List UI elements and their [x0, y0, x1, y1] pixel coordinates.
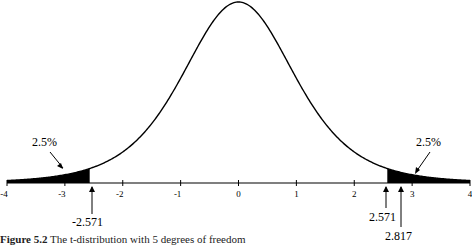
- left-tail-percent-label: 2.5%: [32, 135, 57, 149]
- x-tick-label: 3: [410, 189, 415, 199]
- crit-left-label: -2.571: [72, 215, 103, 229]
- crit-right-arrow: [383, 186, 389, 208]
- x-tick-label: -4: [0, 189, 8, 199]
- crit-right-label: 2.571: [369, 210, 396, 224]
- x-tick-label: 2: [352, 189, 357, 199]
- x-tick-label: -2: [116, 189, 124, 199]
- x-tick-label: 4: [468, 189, 472, 199]
- density-curve: [7, 2, 470, 181]
- figure-caption: Figure 5.2 The t-distribution with 5 deg…: [0, 233, 246, 245]
- x-tick-label: 1: [294, 189, 299, 199]
- figure-number: Figure 5.2: [0, 233, 47, 245]
- x-tick-label: 0: [236, 189, 241, 199]
- figure-caption-text: The t-distribution with 5 degrees of fre…: [50, 233, 246, 245]
- left-tail-shaded-region: [7, 169, 90, 183]
- left-tail-arrow-head: [57, 163, 63, 169]
- crit-left-arrow: [89, 186, 95, 214]
- right-tail-shaded-region: [387, 169, 470, 183]
- right-tail-percent-label: 2.5%: [416, 135, 441, 149]
- x-tick-label: -3: [58, 189, 66, 199]
- x-tick-label: -1: [174, 189, 182, 199]
- t-distribution-chart: -4-3-2-101234 2.5% 2.5% -2.571 2.571 2.8…: [0, 0, 472, 246]
- observed-arrow: [398, 186, 404, 227]
- observed-label: 2.817: [385, 229, 412, 243]
